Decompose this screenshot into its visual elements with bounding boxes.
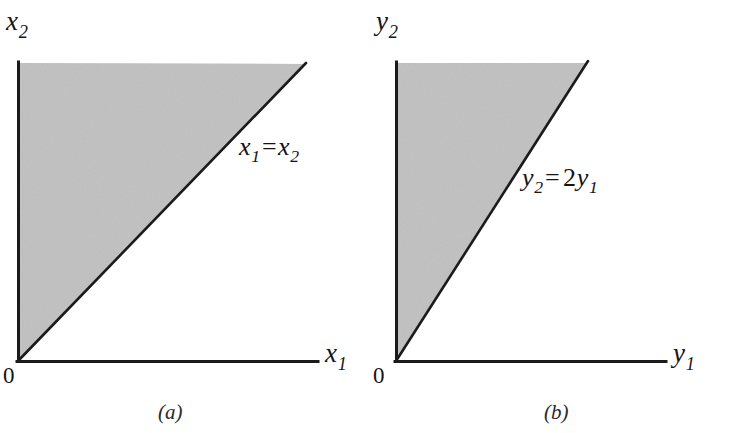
- x-axis-label-b: y1: [673, 340, 695, 373]
- origin-label-b: 0: [373, 364, 385, 387]
- boundary-equation-a: x1=x2: [239, 134, 299, 166]
- caption-a: (a): [158, 402, 183, 423]
- origin-label-a: 0: [3, 364, 15, 387]
- boundary-equation-b: y2=2y1: [522, 165, 598, 197]
- figure-root: x2 x1 x1=x2 0 (a): [0, 0, 731, 433]
- x-axis-label-a: x1: [325, 340, 347, 373]
- panel-b: y2 y1 y2=2y1 0 (b): [366, 0, 731, 433]
- y-axis-label-a: x2: [6, 8, 28, 41]
- y-axis-label-b: y2: [376, 8, 398, 41]
- panel-a-plot: [0, 0, 365, 433]
- caption-b: (b): [544, 402, 569, 423]
- panel-a: x2 x1 x1=x2 0 (a): [0, 0, 365, 433]
